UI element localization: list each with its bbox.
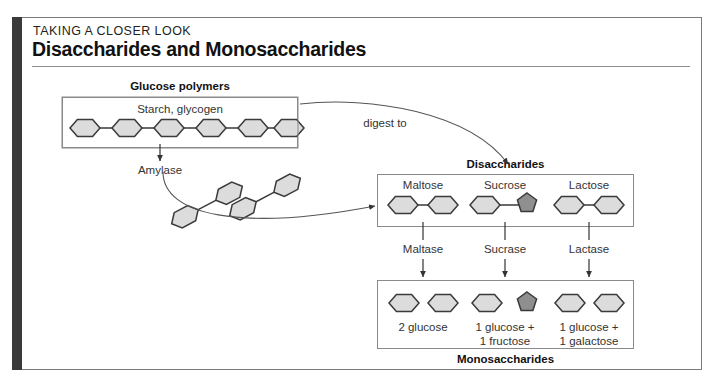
starch-label: Starch, glycogen xyxy=(62,103,298,115)
enzyme-label-sucrase: Sucrase xyxy=(464,243,546,255)
product-label-sucrose-2: 1 fructose xyxy=(464,334,546,348)
panel-kicker: TAKING A CLOSER LOOK xyxy=(33,24,191,38)
disaccharide-name-sucrose: Sucrose xyxy=(464,179,546,191)
digest-to-label: digest to xyxy=(345,117,425,129)
disaccharides-heading: Disaccharides xyxy=(377,158,634,170)
enzyme-label-lactase: Lactase xyxy=(548,243,630,255)
amylase-label: Amylase xyxy=(120,164,200,176)
product-label-lactose-2: 1 galactose xyxy=(548,334,630,348)
glucose-polymers-heading: Glucose polymers xyxy=(62,80,298,92)
title-divider xyxy=(32,66,690,67)
page-title: Disaccharides and Monosaccharides xyxy=(32,38,366,61)
enzyme-label-maltase: Maltase xyxy=(382,243,464,255)
disaccharide-name-maltose: Maltose xyxy=(382,179,464,191)
diagram-root: TAKING A CLOSER LOOK Disaccharides and M… xyxy=(0,0,715,383)
monosaccharides-heading: Monosaccharides xyxy=(377,353,634,365)
disaccharide-name-lactose: Lactose xyxy=(548,179,630,191)
product-label-sucrose-1: 1 glucose + xyxy=(464,320,546,334)
product-label-lactose-1: 1 glucose + xyxy=(548,320,630,334)
panel-accent-bar xyxy=(12,17,22,370)
product-label-maltose-1: 2 glucose xyxy=(382,320,464,334)
